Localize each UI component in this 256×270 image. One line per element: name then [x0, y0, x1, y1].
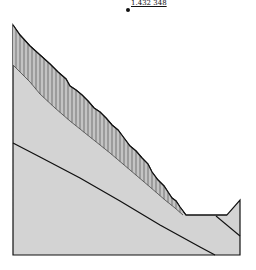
factor-of-safety-label: 1.432 348	[131, 0, 167, 7]
soil-body	[13, 25, 240, 255]
critical-center-point	[126, 8, 130, 12]
slope-stability-diagram	[0, 0, 256, 270]
